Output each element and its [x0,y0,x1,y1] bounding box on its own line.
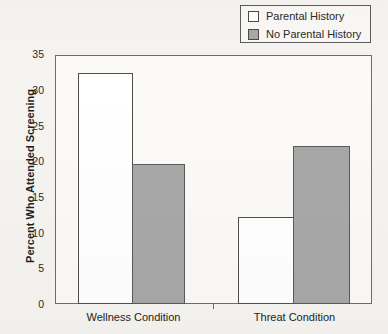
bar-threat-parental-history [238,217,294,304]
x-tick-label-threat-condition: Threat Condition [222,311,367,323]
x-tick-label-wellness-condition: Wellness Condition [61,311,206,323]
y-axis-title: Percent Who Attended Screening [24,76,36,276]
chart-legend: Parental History No Parental History [240,5,371,43]
legend-label-parental-history: Parental History [266,11,344,22]
bar-threat-no-parental-history [293,146,350,304]
bar-wellness-no-parental-history [132,164,185,304]
white-square-swatch-icon [248,11,259,22]
gray-square-swatch-icon [248,29,259,40]
y-tick-label-35: 35 [14,49,44,59]
bar-wellness-parental-history [78,73,133,304]
bar-chart-figure: Parental History No Parental History 35 … [0,0,388,334]
legend-item-no-parental-history: No Parental History [248,25,370,43]
legend-label-no-parental-history: No Parental History [266,29,361,40]
legend-item-parental-history: Parental History [248,7,370,25]
x-tick-mark-center [213,304,214,309]
y-axis: 35 30 25 20 15 10 5 0 Percent Who Attend… [0,0,55,334]
y-tick-label-0: 0 [14,299,44,309]
